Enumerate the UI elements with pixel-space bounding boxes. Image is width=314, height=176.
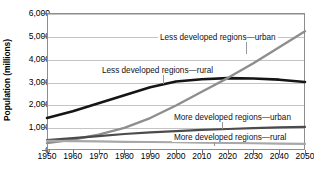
x-tick-mark xyxy=(73,150,74,155)
x-tick-mark xyxy=(253,150,254,155)
x-tick-mark xyxy=(176,150,177,155)
population-line-chart: Population (millions) 01,0002,0003,0004,… xyxy=(0,0,314,176)
x-tick-mark xyxy=(202,150,203,155)
annotation-more-developed-rural: More developed regions—rural xyxy=(172,133,288,142)
annotation-more-developed-urban: More developed regions—urban xyxy=(172,113,293,122)
annotation-less-developed-rural: Less developed regions—rural xyxy=(100,66,215,75)
leader-line-less-rural xyxy=(163,75,164,84)
leader-line-less-urban xyxy=(246,42,247,54)
series-line-less-developed-urban xyxy=(47,31,305,143)
x-tick-label: 2050 xyxy=(285,152,314,161)
x-tick-mark xyxy=(124,150,125,155)
x-tick-mark xyxy=(279,150,280,155)
annotation-less-developed-urban: Less developed regions—urban xyxy=(158,33,278,42)
x-tick-mark xyxy=(228,150,229,155)
x-tick-mark xyxy=(99,150,100,155)
x-tick-mark xyxy=(47,150,48,155)
x-tick-mark xyxy=(150,150,151,155)
leader-line-more-urban xyxy=(222,122,223,129)
x-tick-mark xyxy=(305,150,306,155)
